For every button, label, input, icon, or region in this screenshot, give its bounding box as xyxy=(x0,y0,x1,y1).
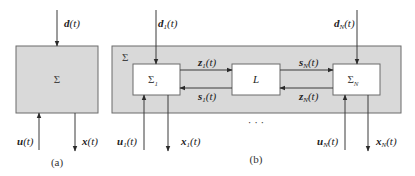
ellipsis: · · · xyxy=(248,116,265,128)
x1-label: x1(t) xyxy=(180,135,201,149)
uN-label: uN(t) xyxy=(317,135,339,149)
caption-b: (b) xyxy=(250,153,263,166)
z1-label: z1(t) xyxy=(197,56,217,70)
disturbance-label: d(t) xyxy=(64,17,80,30)
xN-label: xN(t) xyxy=(375,135,397,149)
panel-a: Σ d(t) u(t) x(t) (a) xyxy=(16,10,98,169)
s1-label: s1(t) xyxy=(197,90,217,104)
system-diagram: Σ d(t) u(t) x(t) (a) Σ Σ1 L ΣN xyxy=(0,0,415,176)
interconnection-label: L xyxy=(252,73,259,85)
panel-b: Σ Σ1 L ΣN d1(t) z1(t) s1(t) xyxy=(112,10,401,166)
system-label: Σ xyxy=(54,73,60,85)
d1-label: d1(t) xyxy=(158,17,178,31)
state-output-label: x(t) xyxy=(81,135,98,148)
dN-label: dN(t) xyxy=(334,17,355,31)
u1-label: u1(t) xyxy=(117,135,137,149)
caption-a: (a) xyxy=(51,156,64,169)
control-input-label: u(t) xyxy=(17,135,34,148)
composite-system-label: Σ xyxy=(122,51,128,63)
zN-label: zN(t) xyxy=(298,90,319,104)
sN-label: sN(t) xyxy=(298,56,319,70)
